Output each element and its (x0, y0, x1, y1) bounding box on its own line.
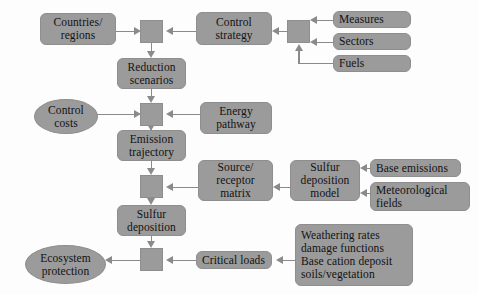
node-weathering-block[interactable]: Weathering rates damage functions Base c… (295, 224, 413, 286)
junction-node-4[interactable] (140, 175, 163, 198)
flow-diagram-canvas: Countries/ regions Control strategy Meas… (0, 0, 478, 295)
arrowhead-junction2-to-control-strategy (272, 27, 279, 35)
arrowhead-junction1-to-reduction (147, 51, 155, 58)
arrowhead-energy-pathway-to-junction3 (166, 110, 173, 118)
node-source-receptor-matrix[interactable]: Source/ receptor matrix (198, 160, 273, 201)
node-sulfur-deposition[interactable]: Sulfur deposition (117, 205, 186, 236)
node-sectors[interactable]: Sectors (333, 33, 411, 50)
edge-critical-loads-to-junction5 (170, 260, 196, 262)
node-energy-pathway[interactable]: Energy pathway (200, 102, 272, 134)
node-reduction-scenarios[interactable]: Reduction scenarios (117, 58, 186, 89)
arrowhead-sulfur-dep-to-junction5 (147, 241, 155, 248)
arrowhead-sulfur-model-to-source-receptor (273, 183, 280, 191)
node-fuels[interactable]: Fuels (333, 55, 411, 72)
node-measures[interactable]: Measures (333, 11, 411, 28)
edge-control-costs-to-junction3 (97, 114, 136, 116)
junction-node-5[interactable] (140, 248, 163, 271)
edge-countries-to-junction1 (116, 31, 136, 33)
node-critical-loads[interactable]: Critical loads (196, 251, 272, 269)
arrowhead-base-emissions-to-model (360, 164, 367, 172)
node-sulfur-deposition-model[interactable]: Sulfur deposition model (290, 160, 360, 201)
arrowhead-fuels-to-junction2 (295, 44, 303, 51)
arrowhead-measures-to-junction2 (310, 16, 317, 24)
edge-fuels-to-junction2-vertical (298, 50, 300, 63)
arrowhead-junction5-to-ecosystem (105, 256, 112, 264)
junction-node-2[interactable] (287, 20, 310, 43)
junction-node-3[interactable] (140, 103, 163, 126)
arrowhead-sectors-to-junction2 (310, 38, 317, 46)
node-control-costs[interactable]: Control costs (34, 99, 98, 134)
edge-fuels-to-junction2-horizontal (298, 63, 333, 65)
node-meteorological-fields[interactable]: Meteorological fields (370, 182, 470, 211)
arrowhead-reduction-to-junction3 (147, 96, 155, 103)
node-ecosystem-protection[interactable]: Ecosystem protection (25, 245, 106, 284)
arrowhead-emission-to-junction4 (147, 168, 155, 175)
node-base-emissions[interactable]: Base emissions (370, 159, 461, 177)
arrowhead-source-receptor-to-junction4 (166, 183, 173, 191)
edge-source-receptor-to-junction4 (170, 187, 198, 189)
node-emission-trajectory[interactable]: Emission trajectory (117, 130, 186, 161)
arrowhead-weathering-to-critical-loads (276, 256, 283, 264)
node-countries-regions[interactable]: Countries/ regions (40, 13, 116, 45)
node-control-strategy[interactable]: Control strategy (196, 12, 272, 45)
arrowhead-meteorological-to-model (360, 189, 367, 197)
edge-control-strategy-to-junction1 (170, 31, 196, 33)
arrowhead-junction4-to-sulfur-dep (147, 198, 155, 205)
arrowhead-critical-loads-to-junction5 (166, 256, 173, 264)
junction-node-1[interactable] (140, 20, 163, 43)
edge-junction5-to-ecosystem (110, 260, 140, 262)
edge-energy-pathway-to-junction3 (170, 114, 200, 116)
arrowhead-control-strategy-to-junction1 (166, 27, 173, 35)
